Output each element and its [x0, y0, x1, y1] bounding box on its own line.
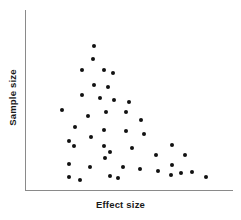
data-point — [138, 167, 142, 171]
data-point — [60, 108, 64, 112]
data-point — [103, 156, 107, 160]
data-point — [142, 132, 146, 136]
plot-area — [25, 10, 232, 190]
data-point — [154, 153, 158, 157]
data-point — [92, 44, 96, 48]
data-point — [190, 170, 194, 174]
data-point — [108, 150, 112, 154]
data-point — [106, 85, 110, 89]
data-point — [67, 175, 71, 179]
data-point — [127, 100, 131, 104]
data-point — [111, 71, 115, 75]
data-point — [102, 128, 106, 132]
data-point — [121, 165, 125, 169]
data-point — [67, 162, 71, 166]
data-point — [139, 118, 143, 122]
data-point — [78, 178, 82, 182]
data-point — [104, 110, 108, 114]
data-point — [73, 125, 77, 129]
data-point — [89, 135, 93, 139]
data-point — [169, 173, 173, 177]
data-point — [183, 153, 187, 157]
data-point — [102, 144, 106, 148]
data-point — [86, 114, 90, 118]
data-point — [108, 174, 112, 178]
data-point — [67, 139, 71, 143]
scatter-plot-figure: Sample size Effect size — [0, 0, 241, 220]
data-point — [91, 57, 95, 61]
data-point — [88, 165, 92, 169]
data-point — [124, 110, 128, 114]
data-point — [80, 93, 84, 97]
data-point — [156, 169, 160, 173]
data-point — [92, 83, 96, 87]
data-point — [179, 171, 183, 175]
y-axis-label: Sample size — [7, 38, 18, 158]
data-point — [170, 163, 174, 167]
data-point — [80, 68, 84, 72]
data-point — [112, 98, 116, 102]
data-point — [72, 144, 76, 148]
data-point — [102, 68, 106, 72]
x-axis-label: Effect size — [0, 199, 241, 210]
data-point — [116, 176, 120, 180]
data-point — [124, 129, 128, 133]
data-point — [204, 175, 208, 179]
data-point — [130, 146, 134, 150]
data-point — [98, 96, 102, 100]
data-point — [170, 143, 174, 147]
x-axis-line — [25, 190, 233, 191]
